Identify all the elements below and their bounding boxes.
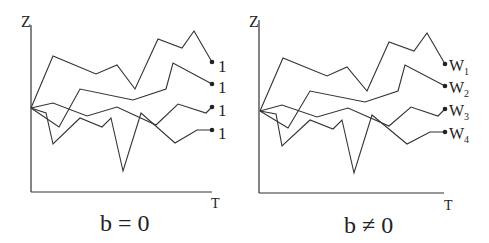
end-label-w1: W1 <box>449 57 469 77</box>
panel-right: Z T b ≠ 0 W1 W2 W3 W4 <box>249 13 469 238</box>
endpoint-dot <box>210 105 215 110</box>
path-3 <box>260 105 445 126</box>
end-label-w2: W2 <box>449 79 469 99</box>
endpoint-dot <box>443 107 448 112</box>
end-label-4: 1 <box>218 124 227 143</box>
end-label-1: 1 <box>218 57 227 76</box>
endpoint-dot <box>443 84 448 89</box>
endpoint-dot <box>443 130 448 135</box>
y-axis-label: Z <box>249 13 259 30</box>
endpoint-dot <box>443 62 448 67</box>
end-label-w4: W4 <box>449 125 469 145</box>
endpoint-dot <box>210 60 215 65</box>
y-axis-label: Z <box>21 13 31 30</box>
diagram-canvas: Z T b = 0 1 1 1 1 Z T b ≠ 0 W1 W2 W3 W4 <box>0 0 489 243</box>
path-4 <box>31 108 212 171</box>
path-2 <box>31 63 212 127</box>
endpoint-dot <box>210 82 215 87</box>
path-4 <box>260 111 445 173</box>
end-label-2: 1 <box>218 78 227 97</box>
end-label-w3: W3 <box>449 102 469 122</box>
caption: b = 0 <box>100 210 150 236</box>
end-label-3: 1 <box>218 101 227 120</box>
path-3 <box>31 103 212 125</box>
caption: b ≠ 0 <box>344 212 393 238</box>
panel-left: Z T b = 0 1 1 1 1 <box>21 13 227 236</box>
x-axis-label: T <box>444 198 453 213</box>
endpoint-dot <box>210 128 215 133</box>
x-axis-label: T <box>211 196 220 211</box>
